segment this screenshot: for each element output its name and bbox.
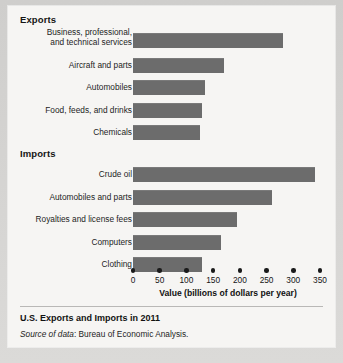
bar-row: Crude oil <box>8 167 335 182</box>
x-axis-title: Value (billions of dollars per year) <box>133 288 323 298</box>
figure-card: ExportsBusiness, professional, and techn… <box>8 6 335 347</box>
chart-plot-area: ExportsBusiness, professional, and techn… <box>8 6 335 268</box>
x-axis-tick-marker <box>291 268 296 273</box>
x-axis-tick-marker <box>184 268 189 273</box>
bar-category-label: Food, feeds, and drinks <box>20 106 132 116</box>
bar-row: Chemicals <box>8 125 335 140</box>
bar-row: Automobiles <box>8 80 335 95</box>
x-axis-tick-label: 50 <box>155 275 164 285</box>
bar-row: Business, professional, and technical se… <box>8 33 335 48</box>
x-axis-tick-marker <box>157 268 162 273</box>
caption-divider <box>20 306 323 307</box>
bar-category-label: Business, professional, and technical se… <box>20 28 132 47</box>
bar <box>133 125 200 140</box>
bar <box>133 80 205 95</box>
bar-category-label: Automobiles <box>20 83 132 93</box>
bar-row: Computers <box>8 235 335 250</box>
bar-category-label: Royalties and license fees <box>20 215 132 225</box>
x-axis-tick-marker <box>131 268 136 273</box>
bar-row: Food, feeds, and drinks <box>8 103 335 118</box>
bar <box>133 103 202 118</box>
bar-category-label: Chemicals <box>20 128 132 138</box>
x-axis-tick-label: 100 <box>180 275 194 285</box>
x-axis-tick-marker <box>318 268 323 273</box>
bar <box>133 212 237 227</box>
bar-category-label: Automobiles and parts <box>20 193 132 203</box>
bar <box>133 33 283 48</box>
x-axis-tick-label: 150 <box>206 275 220 285</box>
x-axis-tick-marker <box>264 268 269 273</box>
x-axis-tick-label: 200 <box>233 275 247 285</box>
x-axis-tick-marker <box>211 268 216 273</box>
bar-category-label: Aircraft and parts <box>20 61 132 71</box>
bar-row: Aircraft and parts <box>8 58 335 73</box>
figure-caption-title: U.S. Exports and Imports in 2011 <box>20 313 160 323</box>
x-axis-tick-label: 0 <box>131 275 136 285</box>
bar <box>133 167 315 182</box>
x-axis-tick-label: 350 <box>313 275 327 285</box>
bar-category-label: Crude oil <box>20 170 132 180</box>
x-axis-tick-marker <box>238 268 243 273</box>
x-axis-tick-label: 250 <box>260 275 274 285</box>
figure-source-note: Source of data: Bureau of Economic Analy… <box>20 329 188 339</box>
source-label: Source of data <box>20 329 74 339</box>
source-text: : Bureau of Economic Analysis. <box>74 329 188 339</box>
bar-row: Royalties and license fees <box>8 212 335 227</box>
bar <box>133 190 272 205</box>
group-heading-imports: Imports <box>20 148 56 159</box>
figure-frame: ExportsBusiness, professional, and techn… <box>0 0 343 363</box>
group-heading-exports: Exports <box>20 14 56 25</box>
bar <box>133 235 221 250</box>
x-axis: Value (billions of dollars per year) 050… <box>8 268 335 304</box>
bar <box>133 58 224 73</box>
bar-row: Automobiles and parts <box>8 190 335 205</box>
bar-category-label: Computers <box>20 238 132 248</box>
x-axis-tick-label: 300 <box>286 275 300 285</box>
